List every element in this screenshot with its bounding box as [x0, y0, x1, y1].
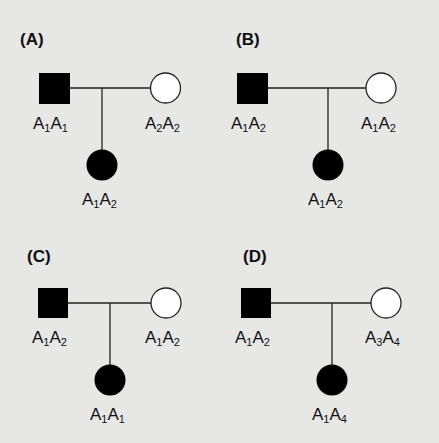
affected-male-icon — [39, 73, 70, 104]
unaffected-female-icon — [151, 288, 181, 318]
affected-female-icon — [313, 150, 344, 181]
pedigree-figure: (A) A1A1 A2A2 A1A2 (B) A1A2 A1A2 A1A2 (C… — [0, 0, 439, 443]
mother-genotype: A1A2 — [145, 328, 180, 348]
panel-b: (B) A1A2 A1A2 A1A2 — [231, 30, 396, 210]
panel-d: (D) A1A2 A3A4 A1A4 — [235, 247, 401, 425]
unaffected-female-icon — [151, 73, 181, 103]
panel-label: (C) — [27, 247, 51, 266]
unaffected-female-icon — [366, 73, 396, 103]
affected-male-icon — [237, 73, 268, 104]
panel-a: (A) A1A1 A2A2 A1A2 — [20, 30, 181, 210]
father-genotype: A1A1 — [33, 114, 68, 134]
unaffected-female-icon — [371, 288, 401, 318]
child-genotype: A1A4 — [312, 405, 347, 425]
affected-female-icon — [87, 150, 118, 181]
panel-label: (D) — [243, 247, 267, 266]
mother-genotype: A3A4 — [365, 328, 400, 348]
panel-label: (B) — [236, 30, 260, 49]
father-genotype: A1A2 — [32, 328, 67, 348]
father-genotype: A1A2 — [235, 328, 270, 348]
child-genotype: A1A2 — [82, 190, 117, 210]
child-genotype: A1A1 — [90, 405, 125, 425]
panel-c: (C) A1A2 A1A2 A1A1 — [27, 247, 181, 425]
mother-genotype: A1A2 — [361, 114, 396, 134]
child-genotype: A1A2 — [308, 190, 343, 210]
affected-female-icon — [95, 365, 126, 396]
affected-male-icon — [38, 288, 68, 318]
father-genotype: A1A2 — [231, 114, 266, 134]
panel-label: (A) — [20, 30, 44, 49]
affected-female-icon — [317, 365, 348, 396]
mother-genotype: A2A2 — [145, 114, 180, 134]
affected-male-icon — [241, 288, 271, 318]
